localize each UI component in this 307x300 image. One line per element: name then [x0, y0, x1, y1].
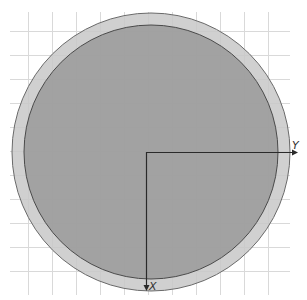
x-axis-label: X — [148, 280, 157, 293]
y-axis-label: Y — [292, 139, 300, 152]
diagram-canvas: Y X — [0, 0, 307, 300]
